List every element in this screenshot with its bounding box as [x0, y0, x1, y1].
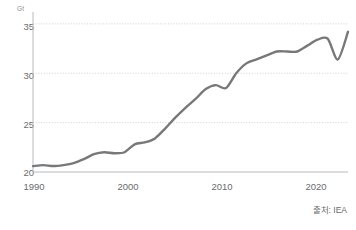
gridlines: [33, 24, 348, 123]
data-line-co2-emissions: [33, 32, 348, 166]
source-attribution: 출처: IEA: [313, 206, 347, 215]
axis-lines: [33, 12, 348, 172]
plot-area: [0, 0, 356, 230]
chart-container: Gt 35 30 25 20 1990 2000 2010 2020 출처: I…: [0, 0, 356, 230]
